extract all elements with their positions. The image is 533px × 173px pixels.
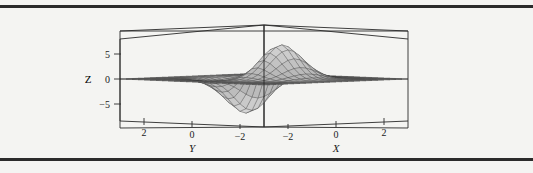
- y-tick-label-neg2: −2: [235, 131, 246, 142]
- y-axis-label: Y: [189, 142, 197, 154]
- plot-area: 5 0 −5 Z 2 0 −2 −2 0 2 Y X: [0, 9, 533, 158]
- y-tick-label-2: 2: [142, 127, 147, 138]
- z-tick-label-0: 0: [105, 74, 110, 85]
- y-tick-label-0: 0: [190, 129, 195, 140]
- box-bottom-back-edge: [120, 127, 408, 128]
- z-tick-label-neg5: −5: [99, 99, 110, 110]
- x-tick-label-neg2: −2: [283, 131, 294, 142]
- x-tick-label-2: 2: [382, 127, 387, 138]
- surface-plot-figure: 5 0 −5 Z 2 0 −2 −2 0 2 Y X: [0, 0, 533, 173]
- surface-plot-svg: 5 0 −5 Z 2 0 −2 −2 0 2 Y X: [0, 9, 533, 158]
- top-horizontal-rule: [0, 5, 533, 8]
- z-tick-label-5: 5: [105, 49, 110, 60]
- z-axis-label: Z: [85, 73, 92, 85]
- x-axis-label: X: [332, 142, 341, 154]
- x-tick-label-0: 0: [334, 129, 339, 140]
- bottom-horizontal-rule: [0, 158, 533, 161]
